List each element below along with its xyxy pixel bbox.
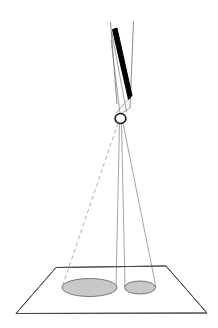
pivot-hinge-icon xyxy=(115,114,126,124)
small-light-spot xyxy=(125,281,156,294)
projection-diagram xyxy=(0,0,218,328)
large-light-spot xyxy=(62,279,117,297)
figure-canvas: Light source projection onto a ground pl… xyxy=(0,0,218,328)
illuminated-spots xyxy=(62,279,156,297)
background xyxy=(0,0,218,328)
